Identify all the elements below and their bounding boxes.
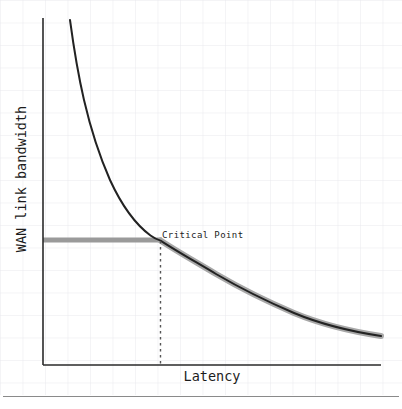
chart-figure: WAN link bandwidth Latency Critical Poin… [0,0,402,409]
plot-area [0,0,402,409]
x-axis-label: Latency [43,368,381,384]
critical-point-annotation: Critical Point [162,230,243,240]
decay-curve [70,20,381,336]
y-axis-label: WAN link bandwidth [13,93,29,265]
footer-divider [3,396,399,397]
decay-curve-shadow [161,241,382,337]
